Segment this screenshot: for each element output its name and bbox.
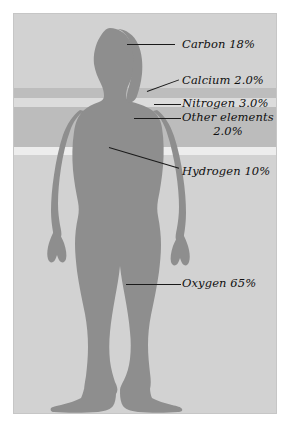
label-other-elements-line1: Other elements [182, 110, 274, 124]
label-nitrogen: Nitrogen 3.0% [182, 97, 269, 111]
leader-line-oxygen [126, 284, 181, 285]
leader-line-other-elements [134, 118, 181, 119]
label-carbon: Carbon 18% [182, 38, 255, 52]
figure-root: Carbon 18% Calcium 2.0% Nitrogen 3.0% Ot… [0, 0, 290, 427]
leader-line-carbon [127, 44, 175, 45]
label-other-elements: Other elements2.0% [182, 111, 274, 138]
illustration-panel: Carbon 18% Calcium 2.0% Nitrogen 3.0% Ot… [13, 13, 277, 414]
label-oxygen: Oxygen 65% [182, 277, 256, 291]
leader-line-nitrogen [154, 104, 181, 105]
label-other-elements-line2: 2.0% [182, 125, 274, 139]
label-calcium: Calcium 2.0% [182, 74, 264, 88]
label-hydrogen: Hydrogen 10% [182, 165, 270, 179]
